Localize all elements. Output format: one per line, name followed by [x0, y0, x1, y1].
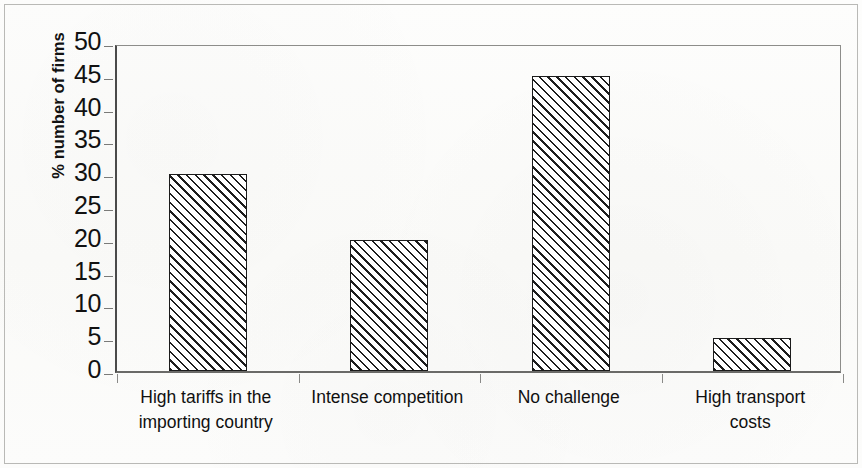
y-axis-tick-label: 10: [74, 291, 101, 316]
x-axis-label: No challenge: [478, 385, 660, 463]
y-axis-tick-mark: [104, 79, 113, 80]
x-axis-labels: High tariffs in theimporting countryInte…: [115, 385, 841, 463]
x-axis-label-line: costs: [663, 410, 839, 435]
x-axis-label-line: importing country: [118, 410, 294, 435]
x-axis-tick-mark: [117, 374, 118, 383]
x-axis-label: Intense competition: [297, 385, 479, 463]
x-axis-label-line: No challenge: [481, 385, 657, 410]
y-axis-tick-label: 5: [87, 324, 101, 349]
y-axis-tick-mark: [104, 276, 113, 277]
x-axis-tick-mark: [843, 374, 844, 383]
x-axis-tick-mark: [299, 374, 300, 383]
y-axis-tick-label: 45: [74, 62, 101, 87]
x-axis-label: High transportcosts: [660, 385, 842, 463]
x-axis-label-line: High tariffs in the: [118, 385, 294, 410]
x-axis-label-line: Intense competition: [300, 385, 476, 410]
y-axis-tick-mark: [104, 177, 113, 178]
plot-area: 50454035302520151050: [115, 45, 841, 373]
y-axis-tick-label: 15: [74, 259, 101, 284]
y-axis-tick-mark: [104, 341, 113, 342]
x-axis-tick-mark: [480, 374, 481, 383]
y-axis-tick-label: 0: [87, 357, 101, 382]
y-axis-tick-mark: [104, 210, 113, 211]
y-axis-tick-mark: [104, 144, 113, 145]
x-axis-tick-mark: [662, 374, 663, 383]
y-axis-tick-mark: [104, 308, 113, 309]
y-axis-tick-label: 35: [74, 127, 101, 152]
y-axis-tick-label: 40: [74, 95, 101, 120]
bar-chart-figure: % number of firms 50454035302520151050 H…: [0, 0, 862, 468]
y-axis-tick-label: 25: [74, 193, 101, 218]
y-axis-tick-mark: [104, 46, 113, 47]
bar: [350, 240, 428, 371]
y-axis-title: % number of firms: [49, 0, 68, 226]
y-axis-tick-mark: [104, 112, 113, 113]
y-axis-tick-mark: [104, 374, 113, 375]
x-axis-label: High tariffs in theimporting country: [115, 385, 297, 463]
bar: [713, 338, 791, 371]
bar: [169, 174, 247, 371]
y-axis-tick-label: 20: [74, 226, 101, 251]
bar: [532, 76, 610, 371]
y-axis-tick-label: 50: [74, 29, 101, 54]
y-axis-tick-label: 30: [74, 160, 101, 185]
x-axis-label-line: High transport: [663, 385, 839, 410]
y-axis-tick-mark: [104, 243, 113, 244]
